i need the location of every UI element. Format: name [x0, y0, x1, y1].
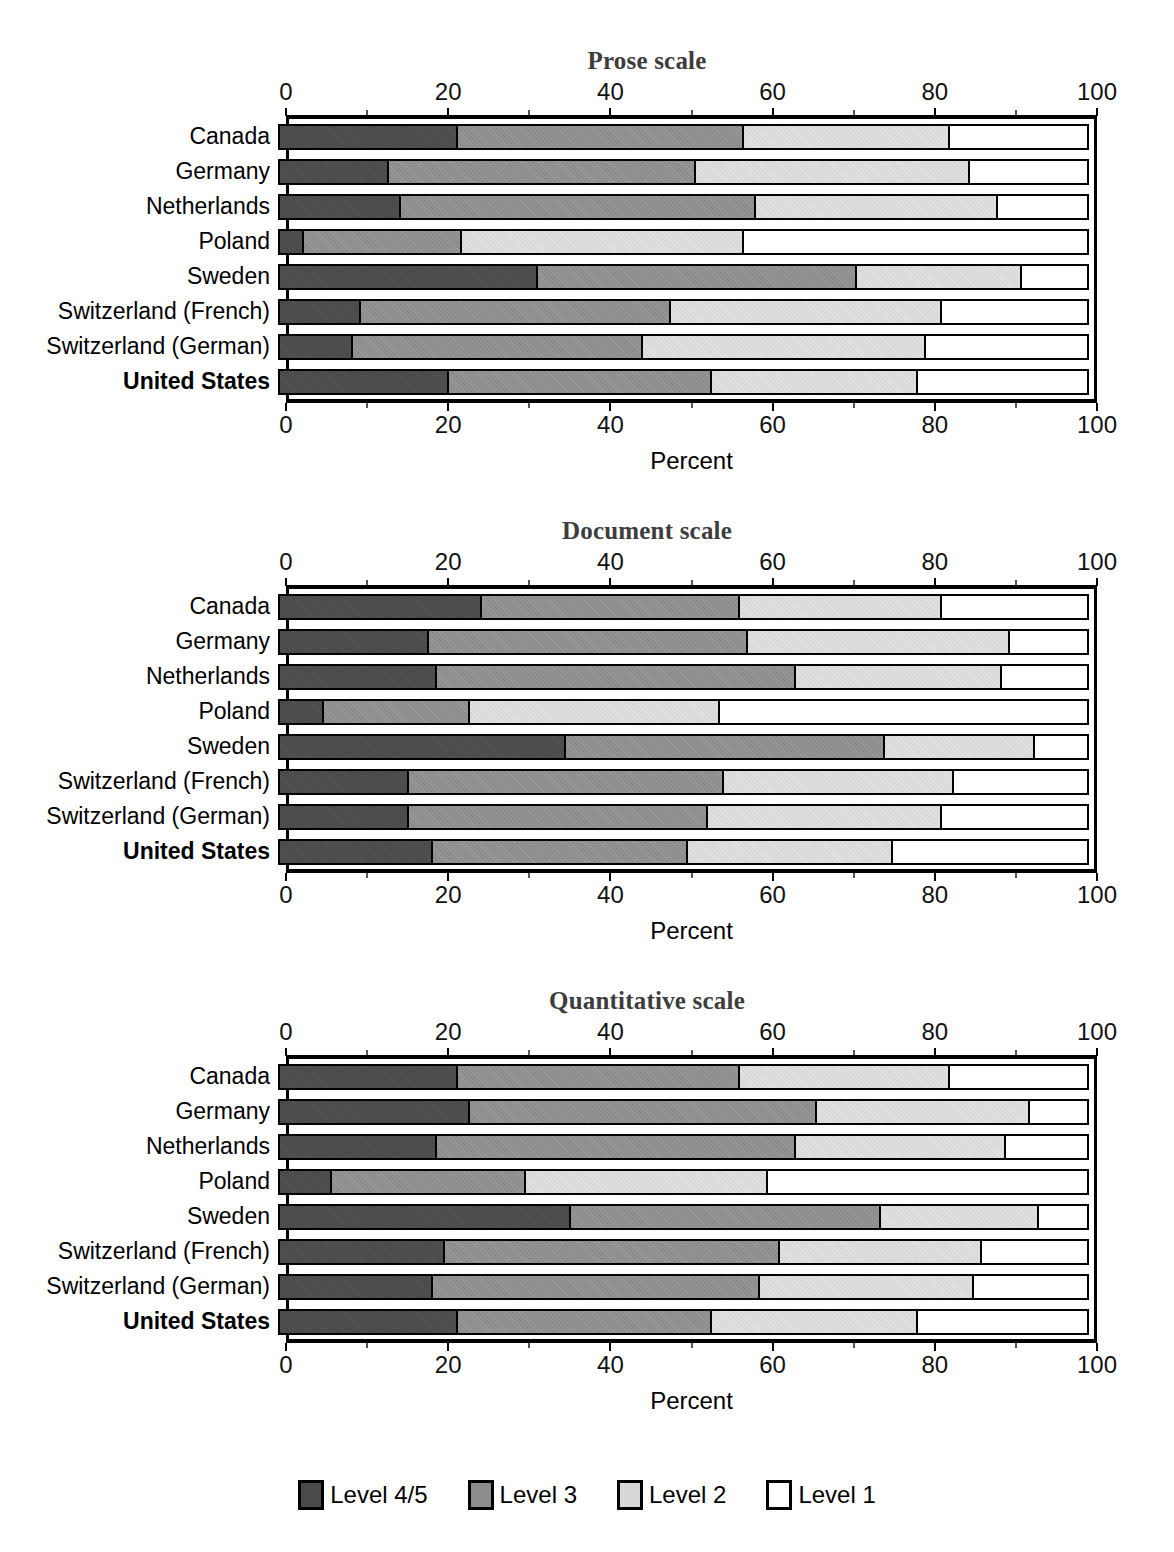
- stacked-bar: [278, 1134, 1089, 1160]
- stacked-bar: [278, 159, 1089, 185]
- axis-tick-label: 0: [279, 1018, 292, 1046]
- axis-tick-label: 0: [279, 881, 292, 909]
- chart-panel-prose: Prose scale 020406080100 CanadaGermanyNe…: [0, 44, 1174, 514]
- axis-tick: [691, 110, 693, 115]
- axis-tick: [1015, 403, 1017, 408]
- axis-tick: [772, 578, 774, 586]
- stacked-bar: [278, 804, 1089, 830]
- axis-tick-label: 0: [279, 1351, 292, 1379]
- axis-tick: [609, 403, 611, 411]
- axis-tick: [1096, 1343, 1098, 1351]
- bar-segment: [482, 596, 740, 618]
- axis-tick: [691, 1343, 693, 1348]
- axis-tick: [1015, 873, 1017, 878]
- chart-row: Poland: [0, 224, 1174, 259]
- bar-segment: [433, 1276, 760, 1298]
- category-label: Poland: [0, 1168, 278, 1195]
- bar-segment: [445, 1241, 780, 1263]
- bar-segment: [796, 1136, 1006, 1158]
- legend-swatch: [298, 1480, 324, 1510]
- category-label: Switzerland (German): [0, 333, 278, 360]
- bar-segment: [1039, 1206, 1087, 1228]
- stacked-bar: [278, 1064, 1089, 1090]
- bar-segment: [740, 1066, 950, 1088]
- bottom-axis-labels: 020406080100: [286, 1351, 1097, 1381]
- axis-tick: [853, 580, 855, 585]
- axis-tick: [447, 403, 449, 411]
- axis-tick-label: 40: [597, 411, 624, 439]
- chart-row: United States: [0, 364, 1174, 399]
- chart-page: Prose scale 020406080100 CanadaGermanyNe…: [0, 0, 1174, 1552]
- chart-row: United States: [0, 1304, 1174, 1339]
- bar-segment: [280, 1066, 458, 1088]
- chart-row: Poland: [0, 1164, 1174, 1199]
- category-label: Switzerland (German): [0, 803, 278, 830]
- axis-tick: [772, 873, 774, 881]
- axis-tick: [447, 873, 449, 881]
- top-axis-line: [286, 108, 1097, 119]
- stacked-bar: [278, 699, 1089, 725]
- bar-segment: [280, 596, 482, 618]
- axis-tick: [528, 580, 530, 585]
- axis-tick: [447, 578, 449, 586]
- axis-tick: [285, 1343, 287, 1351]
- bottom-axis-labels: 020406080100: [286, 881, 1097, 911]
- bar-segment: [744, 231, 1087, 253]
- stacked-bar: [278, 594, 1089, 620]
- stacked-bar: [278, 299, 1089, 325]
- category-label: Switzerland (French): [0, 768, 278, 795]
- axis-tick: [772, 1343, 774, 1351]
- axis-tick-label: 20: [435, 78, 462, 106]
- stacked-bar: [278, 124, 1089, 150]
- stacked-bar: [278, 1169, 1089, 1195]
- bar-segment: [643, 336, 925, 358]
- axis-tick: [447, 1048, 449, 1056]
- bar-segment: [280, 1206, 571, 1228]
- axis-tick-label: 100: [1077, 411, 1117, 439]
- axis-tick: [853, 403, 855, 408]
- axis-tick: [1096, 873, 1098, 881]
- stacked-bar: [278, 229, 1089, 255]
- bar-segment: [744, 126, 950, 148]
- bar-segment: [796, 666, 1002, 688]
- category-label: Switzerland (French): [0, 298, 278, 325]
- bar-segment: [538, 266, 857, 288]
- chart-row: Switzerland (German): [0, 329, 1174, 364]
- axis-tick: [772, 108, 774, 116]
- bar-segment: [280, 841, 433, 863]
- chart-row: Germany: [0, 1094, 1174, 1129]
- axis-tick-label: 60: [759, 548, 786, 576]
- bar-segment: [857, 266, 1022, 288]
- axis-tick: [1015, 110, 1017, 115]
- bar-segment: [1022, 266, 1087, 288]
- panel-title: Prose scale: [0, 44, 1174, 78]
- chart-row: Switzerland (French): [0, 764, 1174, 799]
- axis-tick-label: 60: [759, 881, 786, 909]
- legend-item: Level 3: [468, 1480, 577, 1510]
- bar-segment: [353, 336, 644, 358]
- bottom-axis-line: [286, 1339, 1097, 1351]
- bar-segment: [918, 1311, 1087, 1333]
- bar-segment: [756, 196, 998, 218]
- axis-tick-label: 100: [1077, 1018, 1117, 1046]
- category-label: United States: [0, 838, 278, 865]
- stacked-bar: [278, 1309, 1089, 1335]
- stacked-bar: [278, 664, 1089, 690]
- axis-tick: [528, 873, 530, 878]
- axis-tick: [934, 578, 936, 586]
- bar-segment: [280, 161, 389, 183]
- bar-segment: [458, 126, 744, 148]
- axis-tick-label: 80: [921, 548, 948, 576]
- bar-segment: [720, 701, 1087, 723]
- bar-segment: [1010, 631, 1087, 653]
- axis-tick: [285, 1048, 287, 1056]
- bar-segment: [280, 231, 304, 253]
- bar-segment: [361, 301, 672, 323]
- plot-area: CanadaGermanyNetherlandsPolandSwedenSwit…: [0, 1059, 1174, 1339]
- axis-tick: [853, 1050, 855, 1055]
- legend-label: Level 2: [649, 1481, 726, 1509]
- axis-tick: [609, 108, 611, 116]
- bar-segment: [280, 336, 353, 358]
- axis-tick-label: 0: [279, 78, 292, 106]
- axis-tick: [366, 403, 368, 408]
